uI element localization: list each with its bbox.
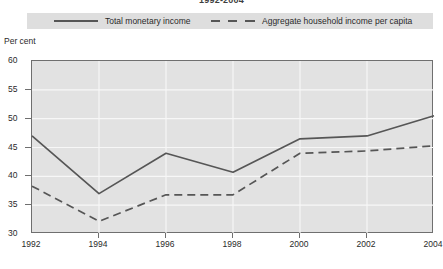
- x-tick-mark: [299, 233, 300, 238]
- x-tick-label: 2002: [357, 239, 376, 249]
- x-tick-mark: [232, 233, 233, 238]
- x-tick-mark: [366, 233, 367, 238]
- legend-line-swatch-dashed: [211, 16, 255, 26]
- legend-line-swatch-solid: [54, 16, 98, 26]
- y-tick-mark: [25, 175, 31, 176]
- plot-area: [31, 60, 433, 233]
- x-tick-mark: [98, 233, 99, 238]
- y-tick-mark: [25, 89, 31, 90]
- x-tick-label: 1994: [89, 239, 108, 249]
- y-tick-label: 30: [8, 228, 28, 238]
- legend-entry-aggregate-household-income: Aggregate household income per capita: [211, 13, 412, 29]
- y-tick-mark: [25, 147, 31, 148]
- x-tick-mark: [165, 233, 166, 238]
- series-layer: [32, 61, 434, 234]
- x-tick-label: 1996: [156, 239, 175, 249]
- chart-figure: 1992-2004 Total monetary income Aggregat…: [0, 0, 443, 269]
- legend-label-1: Aggregate household income per capita: [262, 16, 412, 26]
- y-tick-mark: [25, 118, 31, 119]
- y-tick-mark: [25, 204, 31, 205]
- legend-label-0: Total monetary income: [105, 16, 191, 26]
- y-axis-title: Per cent: [4, 36, 36, 46]
- x-tick-label: 2004: [424, 239, 443, 249]
- x-tick-label: 2000: [290, 239, 309, 249]
- x-tick-label: 1992: [22, 239, 41, 249]
- chart-title: 1992-2004: [0, 0, 443, 5]
- x-tick-label: 1998: [223, 239, 242, 249]
- y-tick-label: 60: [8, 55, 28, 65]
- legend-entry-total-monetary-income: Total monetary income: [54, 13, 191, 29]
